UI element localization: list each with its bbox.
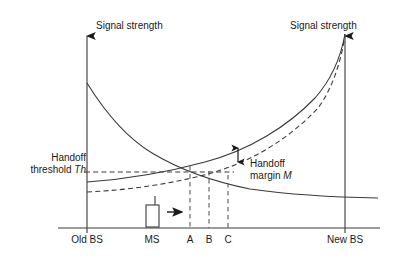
ms-device-body-icon	[146, 205, 159, 227]
new-bs-averaged-signal-curve	[87, 34, 345, 192]
left-axis-title: Signal strength	[96, 20, 163, 32]
right-axis-title: Signal strength	[290, 20, 357, 32]
handoff-threshold-symbol: Th	[74, 164, 86, 175]
handoff-margin-label-line2: margin M	[250, 170, 292, 182]
new-bs-signal-curve	[87, 34, 345, 182]
handoff-threshold-label-line2: threshold Th	[0, 164, 86, 176]
handoff-margin-symbol: M	[283, 170, 291, 181]
diagram-canvas	[0, 0, 393, 264]
x-axis-tick-label: New BS	[305, 234, 385, 245]
handoff-margin-label-line1: Handoff	[250, 158, 292, 170]
handoff-signal-strength-diagram: Signal strength Signal strength Handoff …	[0, 0, 393, 264]
handoff-threshold-label-text: threshold	[30, 164, 74, 175]
x-axis-tick-label: C	[188, 234, 268, 245]
handoff-threshold-label: Handoff threshold Th	[0, 152, 86, 176]
handoff-threshold-label-line1: Handoff	[0, 152, 86, 164]
handoff-margin-label-text: margin	[250, 170, 283, 181]
handoff-margin-label: Handoff margin M	[250, 158, 292, 182]
old-bs-signal-curve	[87, 83, 378, 198]
